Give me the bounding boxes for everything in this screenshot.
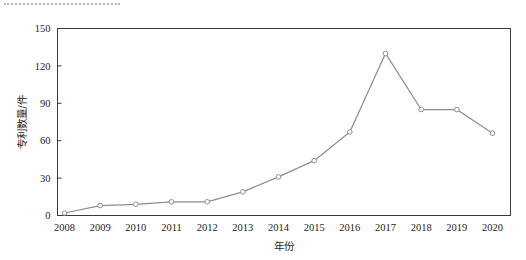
line-chart-figure: 0306090120150 20082009201020112012201320… bbox=[0, 0, 526, 260]
x-tick-label-2009: 2009 bbox=[90, 222, 111, 233]
data-point-2011 bbox=[169, 199, 174, 204]
x-tick-label-2013: 2013 bbox=[232, 222, 253, 233]
y-axis-ticks bbox=[58, 29, 62, 216]
series-line-patent-count bbox=[65, 53, 493, 213]
x-tick-label-2017: 2017 bbox=[375, 222, 396, 233]
chart-page: 0306090120150 20082009201020112012201320… bbox=[0, 0, 526, 260]
data-point-2016 bbox=[348, 130, 353, 135]
data-point-2013 bbox=[241, 190, 246, 195]
data-point-2015 bbox=[312, 158, 317, 163]
x-tick-label-2008: 2008 bbox=[54, 222, 75, 233]
data-point-2009 bbox=[98, 203, 103, 208]
x-tick-label-2012: 2012 bbox=[197, 222, 218, 233]
x-tick-label-2018: 2018 bbox=[411, 222, 432, 233]
y-tick-label: 120 bbox=[35, 61, 51, 72]
data-point-2010 bbox=[134, 202, 139, 207]
data-point-2012 bbox=[205, 199, 210, 204]
y-tick-label: 0 bbox=[45, 210, 50, 221]
x-tick-label-2010: 2010 bbox=[125, 222, 146, 233]
data-point-2014 bbox=[276, 175, 281, 180]
series-markers bbox=[62, 51, 495, 215]
x-axis-title: 年份 bbox=[274, 240, 295, 252]
x-tick-label-2015: 2015 bbox=[304, 222, 325, 233]
chart-canvas: 0306090120150 20082009201020112012201320… bbox=[0, 0, 526, 260]
x-tick-label-2019: 2019 bbox=[446, 222, 467, 233]
data-point-2020 bbox=[490, 131, 495, 136]
data-point-2019 bbox=[455, 107, 460, 112]
x-tick-label-2020: 2020 bbox=[482, 222, 503, 233]
y-tick-label: 60 bbox=[40, 135, 51, 146]
y-tick-label: 90 bbox=[40, 98, 51, 109]
plot-frame bbox=[58, 29, 511, 216]
x-axis-tick-labels: 2008200920102011201220132014201520162017… bbox=[54, 222, 503, 233]
data-point-2017 bbox=[383, 51, 388, 56]
y-tick-label: 30 bbox=[40, 173, 51, 184]
data-point-2008 bbox=[62, 211, 67, 216]
x-tick-label-2011: 2011 bbox=[161, 222, 182, 233]
y-axis-title: 专利数量/件 bbox=[16, 95, 28, 149]
y-tick-label: 150 bbox=[35, 23, 51, 34]
x-tick-label-2014: 2014 bbox=[268, 222, 290, 233]
x-tick-label-2016: 2016 bbox=[339, 222, 360, 233]
y-axis-tick-labels: 0306090120150 bbox=[35, 23, 51, 221]
data-point-2018 bbox=[419, 107, 424, 112]
